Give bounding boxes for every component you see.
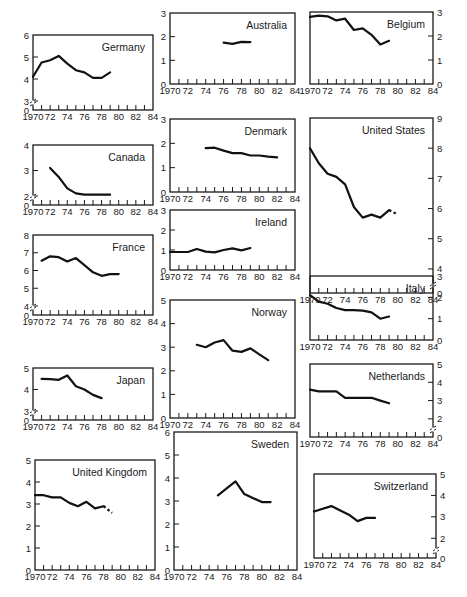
y-tick-label: 5 bbox=[161, 295, 166, 306]
x-tick-label: 74 bbox=[200, 271, 211, 282]
y-tick-label: 1 bbox=[161, 389, 166, 400]
panel-title: Belgium bbox=[387, 18, 425, 30]
x-tick-label: 78 bbox=[236, 85, 247, 96]
x-tick-label: 72 bbox=[183, 419, 194, 430]
x-tick-label: 72 bbox=[326, 559, 337, 570]
y-tick-label: 3 bbox=[26, 499, 31, 510]
y-tick-label: 6 bbox=[165, 427, 170, 438]
x-tick-label: 82 bbox=[272, 419, 283, 430]
x-tick-label: 76 bbox=[221, 571, 232, 582]
series-line bbox=[35, 495, 104, 508]
series-line bbox=[310, 390, 389, 404]
x-tick-label: 84 bbox=[292, 571, 303, 582]
panel-title: France bbox=[112, 241, 145, 253]
x-tick-label: 84 bbox=[148, 316, 159, 327]
x-tick-label: 78 bbox=[375, 438, 386, 449]
series-line bbox=[310, 295, 389, 319]
x-tick-label: 78 bbox=[375, 85, 386, 96]
x-tick-label: 82 bbox=[133, 571, 144, 582]
series-line bbox=[310, 148, 389, 217]
x-tick-label: 84 bbox=[150, 571, 161, 582]
panel-title: Australia bbox=[246, 19, 287, 31]
chart-panel-denmark: 1970727476788082843210Denmark bbox=[170, 119, 295, 204]
x-tick-label: 84 bbox=[148, 206, 159, 217]
x-tick-label: 74 bbox=[344, 559, 355, 570]
projected-line bbox=[389, 210, 398, 215]
chart-panel-sweden: 1970727476788082846543210Sweden bbox=[174, 432, 297, 582]
x-tick-label: 78 bbox=[96, 111, 107, 122]
x-tick-label: 74 bbox=[62, 111, 73, 122]
y-tick-label: 3 bbox=[437, 395, 442, 406]
y-tick-label-zero: 0 bbox=[24, 310, 29, 321]
y-tick-label: 4 bbox=[440, 490, 445, 501]
chart-panel-switzerland: 19707274767880828454320Switzerland bbox=[314, 474, 436, 570]
series-line bbox=[197, 340, 268, 360]
panel-title: Canada bbox=[108, 151, 145, 163]
y-tick-label: 4 bbox=[24, 140, 29, 151]
x-tick-label: 72 bbox=[322, 341, 333, 352]
chart-panel-japan: 1970727476788082845430Japan bbox=[33, 368, 153, 432]
x-tick-label: 74 bbox=[62, 421, 73, 432]
x-tick-label: 80 bbox=[254, 419, 265, 430]
chart-panel-belgium: 1970727476788082843210Belgium bbox=[310, 12, 433, 96]
x-tick-label: 76 bbox=[357, 438, 368, 449]
y-tick-label: 1 bbox=[165, 542, 170, 553]
plot-frame bbox=[310, 118, 433, 293]
x-tick-label: 78 bbox=[96, 316, 107, 327]
chart-panel-ireland: 1970727476788082843210Ireland bbox=[170, 210, 295, 282]
x-tick-label: 72 bbox=[186, 571, 197, 582]
x-tick-label: 80 bbox=[393, 438, 404, 449]
y-tick-label: 2 bbox=[161, 225, 166, 236]
x-tick-label: 82 bbox=[131, 421, 142, 432]
x-tick-label: 72 bbox=[183, 271, 194, 282]
x-tick-label: 76 bbox=[81, 571, 92, 582]
series-line bbox=[218, 481, 271, 502]
series-line bbox=[314, 506, 375, 521]
x-tick-label: 82 bbox=[410, 438, 421, 449]
x-tick-label: 1970 bbox=[303, 559, 324, 570]
x-tick-label: 80 bbox=[113, 421, 124, 432]
x-tick-label: 72 bbox=[183, 193, 194, 204]
x-tick-label: 72 bbox=[45, 111, 56, 122]
x-tick-label: 72 bbox=[45, 206, 56, 217]
x-tick-label: 80 bbox=[254, 85, 265, 96]
y-tick-label: 2 bbox=[437, 413, 442, 424]
y-tick-label: 3 bbox=[165, 496, 170, 507]
x-tick-label: 74 bbox=[200, 419, 211, 430]
y-tick-label: 0 bbox=[161, 187, 166, 198]
x-tick-label: 84 bbox=[148, 111, 159, 122]
x-tick-label: 76 bbox=[218, 419, 229, 430]
y-tick-label-zero: 0 bbox=[440, 553, 445, 564]
x-tick-label: 74 bbox=[62, 206, 73, 217]
y-tick-label: 5 bbox=[437, 233, 442, 244]
y-tick-label: 7 bbox=[24, 247, 29, 258]
panel-title: Italy bbox=[406, 282, 426, 294]
x-tick-label: 74 bbox=[64, 571, 75, 582]
x-tick-label: 78 bbox=[236, 419, 247, 430]
x-tick-label: 82 bbox=[274, 571, 285, 582]
x-tick-label: 84 bbox=[290, 193, 301, 204]
panel-title: Switzerland bbox=[374, 480, 428, 492]
projected-line bbox=[104, 506, 113, 513]
series-line bbox=[310, 16, 389, 45]
x-tick-label: 82 bbox=[272, 193, 283, 204]
y-tick-label: 2 bbox=[440, 533, 445, 544]
x-tick-label: 1970 bbox=[299, 341, 320, 352]
x-tick-label: 82 bbox=[131, 316, 142, 327]
y-tick-label: 3 bbox=[161, 114, 166, 125]
x-tick-label: 82 bbox=[410, 341, 421, 352]
x-tick-label: 82 bbox=[272, 271, 283, 282]
y-tick-label: 5 bbox=[440, 469, 445, 480]
x-tick-label: 82 bbox=[410, 85, 421, 96]
y-tick-label: 5 bbox=[24, 363, 29, 374]
y-tick-label-zero: 0 bbox=[437, 432, 442, 443]
x-tick-label: 80 bbox=[254, 271, 265, 282]
y-tick-label: 1 bbox=[26, 543, 31, 554]
x-tick-label: 72 bbox=[322, 438, 333, 449]
series-line bbox=[206, 148, 277, 158]
x-tick-label: 82 bbox=[413, 559, 424, 570]
x-tick-label: 80 bbox=[393, 85, 404, 96]
x-tick-label: 74 bbox=[200, 85, 211, 96]
x-tick-label: 76 bbox=[218, 271, 229, 282]
x-tick-label: 74 bbox=[340, 85, 351, 96]
